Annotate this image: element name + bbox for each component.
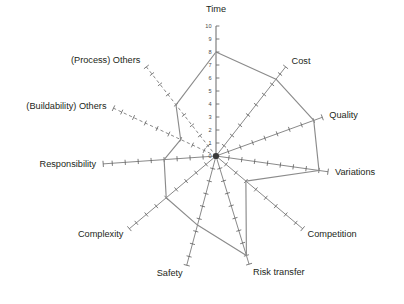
axis-label-cost: Cost — [292, 56, 311, 66]
radial-tick-label-4: 4 — [208, 101, 211, 107]
axis-label-process-others: (Process) Others — [71, 55, 141, 65]
radial-tick-label-3: 3 — [208, 114, 211, 120]
center-hub — [213, 153, 219, 159]
radial-tick-label-8: 8 — [208, 49, 211, 55]
axis-label-risk-transfer: Risk transfer — [253, 267, 305, 277]
axis-label-buildability-others: (Buildability) Others — [26, 101, 107, 111]
series-layer — [164, 52, 319, 255]
radar-chart: 012345678910 Time Cost Quality Variation… — [0, 0, 404, 304]
radial-tick-label-9: 9 — [208, 36, 211, 42]
axis-label-safety: Safety — [157, 268, 183, 278]
radial-tick-label-6: 6 — [208, 75, 211, 81]
radial-tick-label-10: 10 — [205, 23, 211, 29]
axis-label-variations: Variations — [335, 167, 376, 177]
radial-tick-label-7: 7 — [208, 62, 211, 68]
radial-tick-label-5: 5 — [208, 88, 211, 94]
axis-label-competition: Competition — [308, 229, 357, 239]
radar-chart-svg: 012345678910 Time Cost Quality Variation… — [0, 0, 404, 304]
radial-tick-label-1: 1 — [208, 140, 211, 146]
axis-label-quality: Quality — [329, 110, 358, 120]
axis-label-time: Time — [206, 4, 226, 14]
radial-tick-label-2: 2 — [208, 127, 211, 133]
value-axis-layer: 012345678910 — [205, 23, 219, 159]
radial-tick-label-0: 0 — [208, 153, 211, 159]
axis-label-responsibility: Responsibility — [40, 159, 97, 169]
series-polygon — [164, 52, 319, 255]
axis-label-complexity: Complexity — [78, 229, 124, 239]
